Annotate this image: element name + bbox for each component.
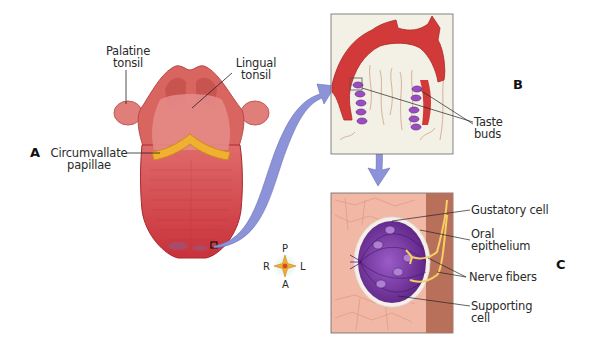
label-supporting-cell-line2: cell <box>471 312 532 324</box>
compass-label-anterior: A <box>282 279 289 291</box>
compass-rose-graphic <box>273 254 297 278</box>
label-palatine-tonsil: Palatine tonsil <box>100 45 156 69</box>
label-oral-epithelium-line2: epithelium <box>471 240 530 252</box>
label-taste-buds: Taste buds <box>474 116 503 140</box>
panel-c-box <box>331 193 470 333</box>
label-supporting-cell: Supporting cell <box>471 300 532 324</box>
label-nerve-fibers: Nerve fibers <box>469 271 537 283</box>
panel-letter-a: A <box>30 145 40 160</box>
label-gustatory-cell: Gustatory cell <box>471 204 548 216</box>
label-taste-buds-line2: buds <box>474 128 503 140</box>
label-oral-epithelium: Oral epithelium <box>471 228 530 252</box>
panel-letter-c: C <box>556 257 566 272</box>
label-circumvallate-papillae: Circumvallate papillae <box>50 147 128 171</box>
compass-label-right: R <box>263 261 270 273</box>
panel-letter-b: B <box>513 77 523 92</box>
panel-b-box <box>331 14 473 154</box>
label-palatine-tonsil-line2: tonsil <box>100 57 156 69</box>
label-lingual-tonsil: Lingual tonsil <box>232 57 280 81</box>
label-lingual-tonsil-line2: tonsil <box>232 69 280 81</box>
label-circumvallate-line2: papillae <box>50 159 128 171</box>
compass-label-posterior: P <box>282 243 288 255</box>
compass-label-left: L <box>300 261 305 273</box>
